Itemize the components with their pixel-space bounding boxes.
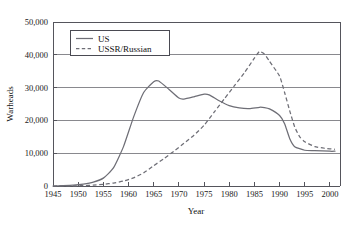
x-tick-label: 1980 xyxy=(221,189,238,199)
y-tick-label: 20,000 xyxy=(25,115,48,125)
x-axis-title: Year xyxy=(188,206,205,216)
x-tick-label: 1990 xyxy=(271,189,288,199)
y-tick-label: 30,000 xyxy=(25,83,48,93)
gridlines-group xyxy=(53,55,340,153)
series-line-ussr-russian xyxy=(53,51,335,186)
x-tick-label: 1995 xyxy=(296,189,313,199)
x-tick-label: 1965 xyxy=(145,189,162,199)
x-tick-label: 1950 xyxy=(70,189,87,199)
legend-label-us: US xyxy=(98,34,110,44)
series-line-us xyxy=(53,81,335,186)
y-axis-ticks: 010,00020,00030,00040,00050,000 xyxy=(25,17,57,191)
y-tick-label: 10,000 xyxy=(25,148,48,158)
x-tick-label: 1975 xyxy=(196,189,213,199)
x-tick-label: 2000 xyxy=(321,189,338,199)
x-axis-ticks: 1945195019551960196519701975198019851990… xyxy=(45,182,339,199)
x-tick-label: 1970 xyxy=(170,189,187,199)
legend-label-ussr-russian: USSR/Russian xyxy=(98,44,152,54)
x-tick-label: 1945 xyxy=(45,189,62,199)
chart-legend: US USSR/Russian xyxy=(70,30,169,55)
chart-figure: 010,00020,00030,00040,00050,000 19451950… xyxy=(0,0,352,226)
nuclear-warheads-line-chart: 010,00020,00030,00040,00050,000 19451950… xyxy=(0,0,352,226)
x-tick-label: 1985 xyxy=(246,189,263,199)
data-series-layer xyxy=(53,51,335,186)
y-tick-label: 50,000 xyxy=(25,17,48,27)
x-tick-label: 1960 xyxy=(120,189,137,199)
y-axis-title: Warheads xyxy=(5,86,15,122)
y-tick-label: 40,000 xyxy=(25,50,48,60)
x-tick-label: 1955 xyxy=(95,189,112,199)
